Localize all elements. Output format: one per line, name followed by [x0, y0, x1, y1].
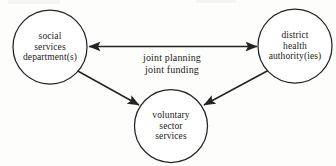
- diagram-canvas: [0, 0, 336, 166]
- node-district-health: [258, 9, 332, 83]
- edge-social-to-voluntary: [76, 70, 139, 105]
- nodes-group: [13, 9, 332, 163]
- node-voluntary-sector: [135, 90, 208, 163]
- diagram-container: social services department(s) district h…: [0, 0, 336, 166]
- edge-health-to-voluntary: [204, 70, 269, 105]
- node-social-services: [13, 10, 87, 84]
